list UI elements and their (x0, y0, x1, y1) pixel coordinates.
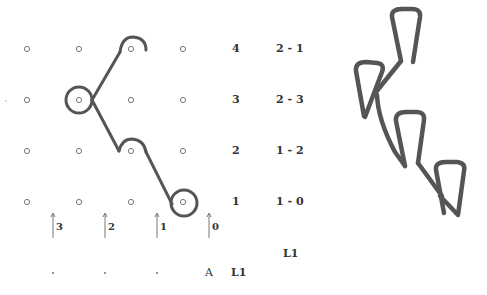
row-level-label: 4 (232, 43, 240, 54)
bottom-a-label: A (205, 267, 213, 278)
grid-dot (128, 46, 133, 51)
grid-dot (24, 46, 29, 51)
arrow-label: 1 (160, 222, 167, 232)
grid-dot (180, 148, 185, 153)
bottom-dot (156, 272, 158, 274)
side-l1-label: L1 (283, 248, 298, 259)
grid-dot (76, 46, 81, 51)
grid-dot (128, 97, 133, 102)
loop-1 (392, 9, 420, 62)
braid-diagram (0, 0, 487, 295)
grid-dot (128, 148, 133, 153)
row-pair-label: 2 - 1 (276, 43, 304, 54)
grid-dot (24, 148, 29, 153)
row-pair-label: 2 - 3 (276, 94, 304, 105)
row-pair-label: 1 - 2 (276, 145, 304, 156)
arrow-label: 2 (108, 222, 115, 232)
grid-dot (24, 97, 29, 102)
middle-hook (119, 139, 146, 152)
row-level-label: 1 (232, 196, 240, 207)
grid-dot (76, 97, 81, 102)
middle-diagonal (92, 100, 119, 151)
grid-dot (24, 199, 29, 204)
stray-dot (5, 100, 7, 102)
bottom-l1-label: L1 (231, 267, 246, 278)
arrow-label: 3 (56, 222, 63, 232)
grid-dot (180, 199, 185, 204)
loop-circle-lower (171, 190, 197, 216)
row-pair-label: 1 - 0 (276, 196, 304, 207)
strand-path (66, 37, 197, 216)
row-level-label: 3 (232, 94, 240, 105)
grid-dot (180, 46, 185, 51)
arrow-label: 0 (212, 222, 219, 232)
grid-dot (128, 199, 133, 204)
bottom-dot (104, 272, 106, 274)
bottom-dot (52, 272, 54, 274)
lower-diagonal (146, 152, 172, 204)
loop-4 (436, 162, 464, 215)
row-level-label: 2 (232, 145, 240, 156)
knot-figure (356, 9, 464, 215)
bottom-dots (52, 272, 158, 274)
loop-circle-upper (66, 87, 92, 113)
upper-diagonal (92, 52, 120, 100)
grid-dot (76, 148, 81, 153)
grid-dot (180, 97, 185, 102)
grid-dots (5, 46, 185, 204)
grid-dot (76, 199, 81, 204)
